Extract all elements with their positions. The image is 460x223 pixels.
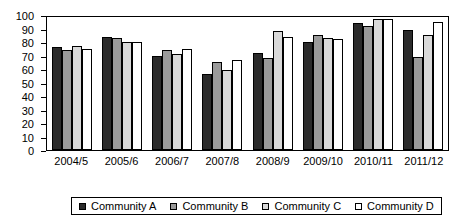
bar-group	[197, 17, 247, 150]
y-tick-label: 0	[28, 146, 34, 157]
bar	[263, 58, 273, 150]
bar	[172, 54, 182, 150]
legend-label: Community C	[274, 200, 341, 212]
bar	[162, 50, 172, 150]
bar	[413, 57, 423, 150]
bar	[253, 53, 263, 150]
bar-group	[348, 17, 398, 150]
bar	[333, 39, 343, 150]
bar	[423, 35, 433, 150]
x-tick-label: 2009/10	[298, 155, 348, 173]
bar	[132, 42, 142, 150]
legend-label: Community B	[182, 200, 248, 212]
bar	[232, 60, 242, 150]
bar-group	[398, 17, 448, 150]
bar	[303, 42, 313, 150]
bar	[82, 49, 92, 150]
legend-swatch-icon	[79, 203, 86, 210]
bar	[353, 23, 363, 150]
legend-item[interactable]: Community C	[262, 200, 341, 212]
bar-chart: 0102030405060708090100 2004/52005/62006/…	[0, 0, 460, 223]
x-axis: 2004/52005/62006/72007/82008/92009/10201…	[46, 155, 449, 173]
y-tick-label: 50	[22, 78, 34, 89]
bar	[283, 37, 293, 150]
bar	[72, 46, 82, 150]
bar	[102, 37, 112, 150]
legend-label: Community D	[367, 200, 434, 212]
legend-swatch-icon	[170, 203, 177, 210]
bar	[62, 50, 72, 150]
legend-item[interactable]: Community B	[170, 200, 248, 212]
bar	[363, 26, 373, 150]
bar-group	[248, 17, 298, 150]
bar	[112, 38, 122, 150]
bar	[273, 31, 283, 150]
x-tick-label: 2010/11	[348, 155, 398, 173]
x-tick-label: 2006/7	[147, 155, 197, 173]
bar	[433, 22, 443, 150]
y-tick-mark	[41, 151, 46, 152]
bar	[202, 74, 212, 150]
y-tick-label: 80	[22, 38, 34, 49]
bar	[323, 38, 333, 150]
legend-swatch-icon	[262, 203, 269, 210]
legend-item[interactable]: Community D	[355, 200, 434, 212]
bar	[222, 70, 232, 150]
bar	[212, 62, 222, 150]
y-tick-label: 40	[22, 92, 34, 103]
legend-item[interactable]: Community A	[79, 200, 156, 212]
y-tick-label: 10	[22, 132, 34, 143]
bar	[122, 42, 132, 150]
bar	[383, 19, 393, 150]
bar	[152, 56, 162, 151]
y-tick-label: 90	[22, 24, 34, 35]
legend-swatch-icon	[355, 203, 362, 210]
x-tick-label: 2011/12	[399, 155, 449, 173]
x-tick-label: 2008/9	[248, 155, 298, 173]
plot-area	[46, 16, 449, 151]
bars-layer	[47, 17, 448, 150]
x-tick-label: 2004/5	[46, 155, 96, 173]
bar	[52, 47, 62, 150]
bar	[373, 19, 383, 150]
x-tick-label: 2005/6	[96, 155, 146, 173]
bar	[313, 35, 323, 150]
y-axis: 0102030405060708090100	[0, 16, 40, 151]
y-tick-label: 60	[22, 65, 34, 76]
y-tick-label: 20	[22, 119, 34, 130]
y-tick-label: 100	[16, 11, 34, 22]
x-tick-label: 2007/8	[197, 155, 247, 173]
bar-group	[97, 17, 147, 150]
bar-group	[147, 17, 197, 150]
bar-group	[47, 17, 97, 150]
chart-legend: Community ACommunity BCommunity CCommuni…	[71, 197, 442, 215]
legend-label: Community A	[91, 200, 156, 212]
y-tick-label: 70	[22, 51, 34, 62]
bar	[403, 30, 413, 150]
bar-group	[298, 17, 348, 150]
y-tick-label: 30	[22, 105, 34, 116]
bar	[182, 49, 192, 150]
